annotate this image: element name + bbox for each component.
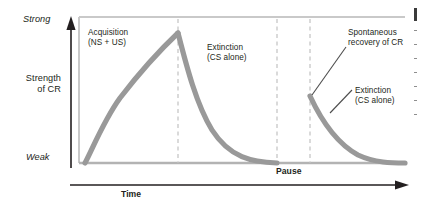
annotation-spontaneous-recovery-line2: recovery of CR <box>348 38 403 48</box>
y-axis-arrowhead <box>66 16 75 30</box>
y-axis-title-line1: Strength <box>13 73 61 84</box>
x-axis-title: Time <box>121 189 141 199</box>
annotation-extinction-second-line1: Extinction <box>355 86 391 96</box>
annotation-extinction-first-line2: (CS alone) <box>207 53 247 63</box>
leader-line-extinction-second <box>330 90 352 113</box>
annotation-spontaneous-recovery-line1: Spontaneous <box>348 28 397 38</box>
adjacent-column-text-line <box>414 72 417 73</box>
adjacent-column-text-line <box>414 100 417 101</box>
annotation-extinction-first-line1: Extinction <box>207 43 243 53</box>
y-axis-top-label: Strong <box>23 14 50 24</box>
leader-line-spontaneous-recovery <box>312 47 346 95</box>
y-axis-title-line2: of CR <box>13 84 61 95</box>
adjacent-column-text-line <box>414 114 417 115</box>
annotation-extinction-second-line2: (CS alone) <box>355 96 395 106</box>
annotation-acquisition-line1: Acquisition <box>88 28 128 38</box>
adjacent-column-text-line <box>414 44 417 45</box>
curve-acquisition <box>85 33 178 163</box>
x-axis-arrowhead <box>395 180 409 189</box>
adjacent-column-heading-mark <box>414 8 417 21</box>
y-axis-bottom-label: Weak <box>26 152 50 162</box>
adjacent-column-text-line <box>414 30 417 31</box>
annotation-acquisition-line2: (NS + US) <box>88 38 126 48</box>
adjacent-column-text-line <box>414 86 417 87</box>
figure-conditioning-curve: Strong Strength of CR Weak Acquisition (… <box>0 0 428 210</box>
adjacent-column-text-line <box>414 58 417 59</box>
annotation-pause: Pause <box>276 166 302 176</box>
adjacent-text-column-bleed <box>414 0 428 210</box>
